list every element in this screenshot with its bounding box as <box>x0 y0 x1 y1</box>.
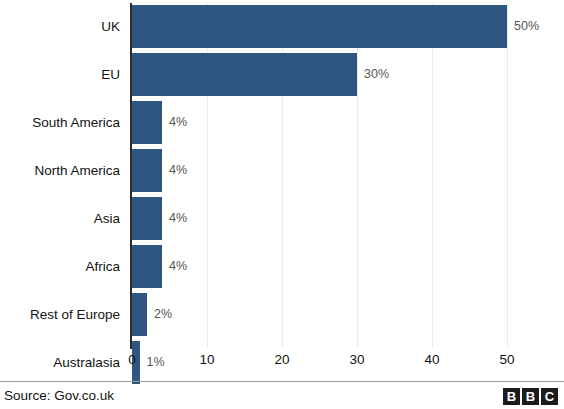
bar-value-label: 30% <box>364 53 389 96</box>
bar <box>132 245 162 288</box>
x-axis-tick-label: 10 <box>199 352 214 367</box>
category-label: South America <box>0 101 120 144</box>
bar-row: UK50% <box>0 5 564 48</box>
x-axis: 01020304050 <box>0 348 564 374</box>
bbc-logo-block: B <box>522 388 539 405</box>
bar-value-label: 4% <box>169 197 187 240</box>
bar-row: EU30% <box>0 53 564 96</box>
category-label: Rest of Europe <box>0 293 120 336</box>
bar-row: South America4% <box>0 101 564 144</box>
bbc-logo-block: C <box>541 388 558 405</box>
bar-rows: UK50%EU30%South America4%North America4%… <box>0 0 564 348</box>
bar <box>132 197 162 240</box>
bar-value-label: 2% <box>154 293 172 336</box>
chart-footer: Source: Gov.co.uk BBC <box>0 379 564 409</box>
bar-value-label: 50% <box>514 5 539 48</box>
bar <box>132 293 147 336</box>
bar <box>132 101 162 144</box>
x-axis-tick-label: 40 <box>424 352 439 367</box>
bbc-logo: BBC <box>503 388 558 405</box>
x-axis-tick-label: 20 <box>274 352 289 367</box>
bar-row: Rest of Europe2% <box>0 293 564 336</box>
footer-divider <box>0 381 564 382</box>
category-label: Africa <box>0 245 120 288</box>
bar-value-label: 4% <box>169 149 187 192</box>
category-label: UK <box>0 5 120 48</box>
bbc-logo-block: B <box>503 388 520 405</box>
bar-row: Africa4% <box>0 245 564 288</box>
bar <box>132 149 162 192</box>
bar-value-label: 4% <box>169 245 187 288</box>
x-axis-tick-label: 0 <box>128 352 136 367</box>
category-label: EU <box>0 53 120 96</box>
category-label: Asia <box>0 197 120 240</box>
category-label: North America <box>0 149 120 192</box>
x-axis-tick-label: 50 <box>499 352 514 367</box>
bar-chart-figure: UK50%EU30%South America4%North America4%… <box>0 0 564 409</box>
bar <box>132 5 507 48</box>
source-label: Source: Gov.co.uk <box>4 388 114 403</box>
bar <box>132 53 357 96</box>
x-axis-tick-label: 30 <box>349 352 364 367</box>
bar-value-label: 4% <box>169 101 187 144</box>
plot-area: UK50%EU30%South America4%North America4%… <box>0 0 564 352</box>
bar-row: Asia4% <box>0 197 564 240</box>
bar-row: North America4% <box>0 149 564 192</box>
